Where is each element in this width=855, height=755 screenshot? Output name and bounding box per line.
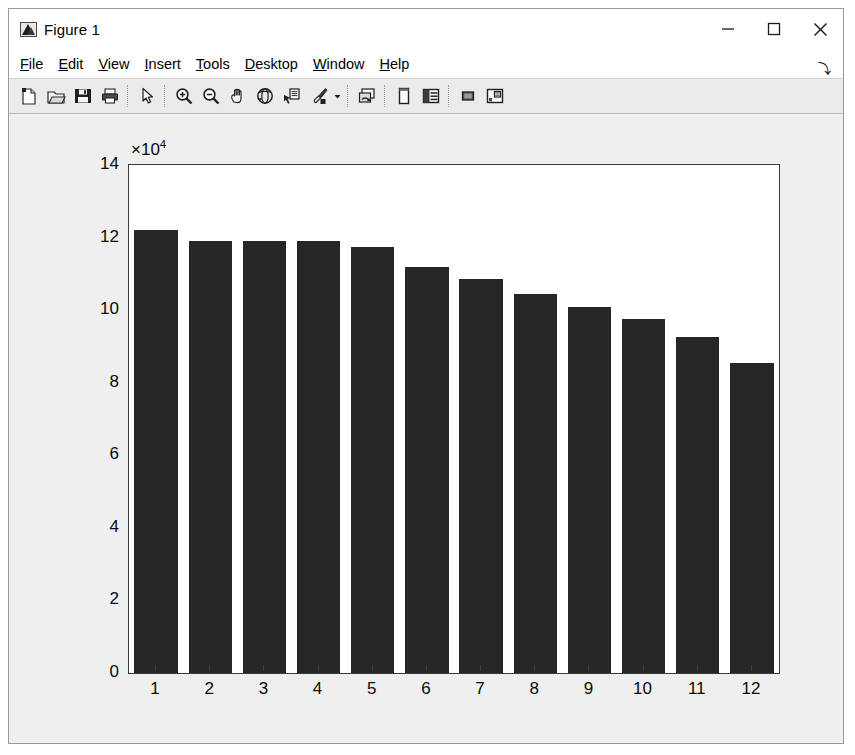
- y-tick-label-6: 6: [110, 444, 119, 464]
- menu-item-desktop[interactable]: Desktop: [245, 56, 298, 72]
- x-tick-mark: [318, 665, 319, 671]
- x-tick-label-10: 10: [633, 679, 652, 699]
- bar-3[interactable]: [243, 241, 286, 673]
- insert-legend-button[interactable]: [481, 83, 508, 110]
- menu-item-help[interactable]: Help: [380, 56, 410, 72]
- new-figure-icon: [19, 86, 39, 106]
- x-tick-mark: [480, 665, 481, 671]
- maximize-button[interactable]: [751, 9, 797, 49]
- x-tick-mark: [534, 665, 535, 671]
- menu-edit-mnemonic: E: [58, 56, 68, 72]
- property-editor-button[interactable]: [454, 83, 481, 110]
- link-plot-button[interactable]: [353, 83, 380, 110]
- y-tick-label-8: 8: [110, 372, 119, 392]
- menu-item-view[interactable]: View: [98, 56, 129, 72]
- bar-series: [129, 165, 779, 673]
- bar-11[interactable]: [676, 337, 719, 673]
- menu-view-rest: iew: [108, 56, 130, 72]
- data-cursor-button[interactable]: [278, 83, 305, 110]
- menu-desktop-rest: esktop: [255, 56, 298, 72]
- menu-window-rest: indow: [327, 56, 365, 72]
- x-tick-mark: [697, 665, 698, 671]
- bar-2[interactable]: [189, 241, 232, 673]
- menu-tools-mnemonic: T: [196, 56, 203, 72]
- open-file-button[interactable]: [42, 83, 69, 110]
- menu-item-edit[interactable]: Edit: [58, 56, 83, 72]
- brush-dropdown-caret-icon: [333, 92, 342, 101]
- edit-plot-button[interactable]: [133, 83, 160, 110]
- zoom-in-icon: [174, 86, 194, 106]
- zoom-in-button[interactable]: [170, 83, 197, 110]
- bar-6[interactable]: [405, 267, 448, 673]
- menu-item-tools[interactable]: Tools: [196, 56, 230, 72]
- edit-plot-arrow-icon: [137, 86, 157, 106]
- y-tick-label-10: 10: [100, 299, 119, 319]
- link-plot-icon: [357, 86, 377, 106]
- new-figure-button[interactable]: [15, 83, 42, 110]
- y-axis-multiplier: ×104: [131, 138, 166, 160]
- menu-edit-rest: dit: [68, 56, 83, 72]
- plot-browser-button[interactable]: [417, 83, 444, 110]
- minimize-button[interactable]: [705, 9, 751, 49]
- y-multiplier-exponent: 4: [160, 138, 166, 150]
- zoom-out-button[interactable]: [197, 83, 224, 110]
- bar-4[interactable]: [297, 241, 340, 673]
- x-tick-label-6: 6: [421, 679, 430, 699]
- data-cursor-icon: [282, 86, 302, 106]
- rotate-3d-icon: [255, 86, 275, 106]
- toolbar-separator: [127, 85, 129, 107]
- pan-button[interactable]: [224, 83, 251, 110]
- plot-browser-icon: [421, 86, 441, 106]
- menu-file-rest: ile: [29, 56, 44, 72]
- y-multiplier-base: ×10: [131, 140, 160, 159]
- menu-help-mnemonic: H: [380, 56, 390, 72]
- y-tick-label-4: 4: [110, 517, 119, 537]
- close-button[interactable]: [797, 9, 843, 49]
- x-tick-label-4: 4: [313, 679, 322, 699]
- y-tick-label-0: 0: [110, 662, 119, 682]
- menu-insert-rest: nsert: [149, 56, 181, 72]
- open-file-icon: [46, 86, 66, 106]
- brush-dropdown-button[interactable]: [332, 83, 343, 110]
- menu-item-window[interactable]: Window: [313, 56, 365, 72]
- zoom-out-icon: [201, 86, 221, 106]
- y-tick-label-2: 2: [110, 589, 119, 609]
- menu-tools-rest: ools: [203, 56, 230, 72]
- x-axis-tick-marks: [128, 665, 780, 675]
- bar-10[interactable]: [622, 319, 665, 673]
- x-tick-mark: [263, 665, 264, 671]
- plot-area[interactable]: [128, 164, 780, 674]
- menu-item-insert[interactable]: Insert: [145, 56, 181, 72]
- bar-9[interactable]: [568, 307, 611, 673]
- insert-legend-icon: [485, 86, 505, 106]
- bar-12[interactable]: [730, 363, 773, 673]
- bar-7[interactable]: [459, 279, 502, 673]
- bar-8[interactable]: [514, 294, 557, 673]
- rotate-3d-button[interactable]: [251, 83, 278, 110]
- x-tick-mark: [426, 665, 427, 671]
- menu-window-mnemonic: W: [313, 56, 327, 72]
- menu-file-mnemonic: F: [20, 56, 29, 72]
- y-axis-tick-labels: 02468101214: [61, 164, 119, 672]
- brush-data-button[interactable]: [305, 83, 332, 110]
- figure-canvas[interactable]: ×104 02468101214 123456789101112: [9, 114, 843, 743]
- bar-1[interactable]: [134, 230, 177, 673]
- figure-palette-button[interactable]: [390, 83, 417, 110]
- toolbar-separator: [164, 85, 166, 107]
- save-figure-button[interactable]: [69, 83, 96, 110]
- menu-item-file[interactable]: File: [20, 56, 43, 72]
- window-title: Figure 1: [44, 21, 100, 38]
- x-tick-label-8: 8: [530, 679, 539, 699]
- print-figure-icon: [100, 86, 120, 106]
- bar-5[interactable]: [351, 247, 394, 673]
- print-figure-button[interactable]: [96, 83, 123, 110]
- menu-overflow-icon[interactable]: ⤵: [818, 62, 831, 75]
- brush-data-icon: [309, 86, 329, 106]
- x-axis-tick-labels: 123456789101112: [128, 679, 780, 705]
- y-tick-label-14: 14: [100, 154, 119, 174]
- x-tick-label-2: 2: [205, 679, 214, 699]
- toolbar-separator: [384, 85, 386, 107]
- menu-help-rest: elp: [390, 56, 409, 72]
- save-figure-icon: [73, 86, 93, 106]
- figure-window: Figure 1 File Edit View: [8, 8, 844, 744]
